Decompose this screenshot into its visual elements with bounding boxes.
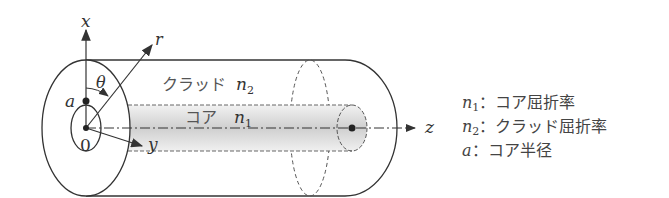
legend-item: n1：コア屈折率 xyxy=(462,93,607,117)
legend-text: コア屈折率 xyxy=(495,93,575,112)
cladding-index: n2 xyxy=(236,74,254,97)
legend-item: a：コア半径 xyxy=(462,141,607,160)
radius-a-dot xyxy=(83,98,90,105)
legend-symbol: n xyxy=(462,93,472,112)
z-axis-end-dot xyxy=(349,125,356,132)
legend-symbol: n xyxy=(462,117,472,136)
legend-item: n2：クラッド屈折率 xyxy=(462,117,607,141)
x-axis-label: x xyxy=(81,11,91,31)
y-axis-label: y xyxy=(147,134,158,154)
origin-dot xyxy=(83,125,89,131)
legend-text: クラッド屈折率 xyxy=(495,117,607,136)
legend-separator: ： xyxy=(472,141,488,160)
z-axis-label: z xyxy=(424,117,435,137)
legend: n1：コア屈折率 n2：クラッド屈折率 a：コア半径 xyxy=(462,93,607,160)
radius-a-label: a xyxy=(65,91,75,111)
cladding-label: クラッド xyxy=(162,75,226,94)
legend-separator: ： xyxy=(479,117,495,136)
legend-symbol: a xyxy=(462,141,472,160)
r-axis-label: r xyxy=(155,30,164,49)
legend-text: コア半径 xyxy=(488,141,552,160)
legend-separator: ： xyxy=(479,93,495,112)
origin-label: 0 xyxy=(80,135,91,155)
theta-label: θ xyxy=(96,73,106,92)
core-label: コア xyxy=(185,108,217,127)
